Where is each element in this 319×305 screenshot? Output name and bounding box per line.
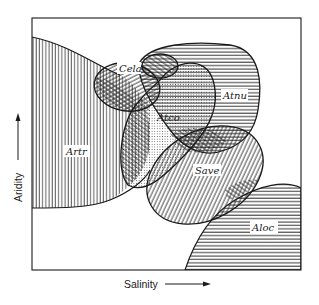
label-artr: Artr [65, 146, 88, 157]
x-axis-label: Salinity [124, 278, 159, 290]
region-cela-small [142, 54, 178, 78]
label-atco: Atco [156, 112, 180, 123]
y-axis-label: Aridity [12, 172, 24, 202]
label-atnu: Atnu [222, 90, 247, 101]
label-aloc: Aloc [251, 222, 274, 233]
niche-diagram: Cela Atnu Atco Artr Save Aloc Aridity Sa… [0, 0, 319, 305]
label-cela: Cela [119, 63, 142, 74]
label-save: Save [195, 165, 219, 176]
